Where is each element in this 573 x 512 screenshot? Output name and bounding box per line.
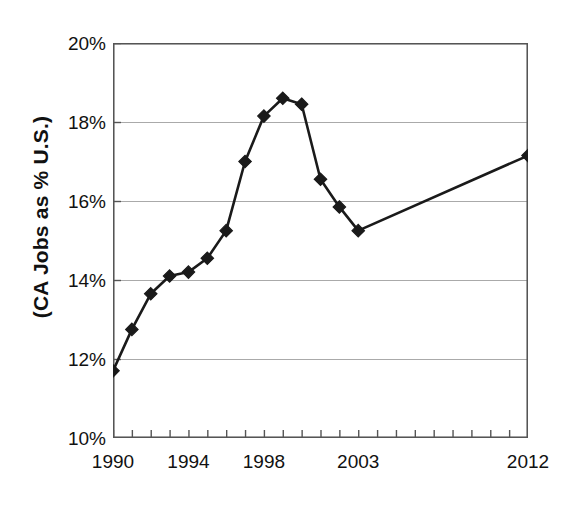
plot-area: [113, 43, 528, 438]
plot-frame: [114, 44, 528, 438]
data-point-marker: [522, 149, 528, 161]
y-axis-tick-label: 12%: [44, 350, 106, 369]
x-axis-tick-label: 2012: [507, 452, 549, 471]
y-axis-tick-label: 20%: [44, 34, 106, 53]
x-axis-tick-label: 1998: [243, 452, 285, 471]
data-point-marker: [295, 98, 307, 110]
data-point-marker: [126, 323, 138, 335]
y-axis-tick-label: 18%: [44, 113, 106, 132]
y-axis-tick-label: 10%: [44, 429, 106, 448]
x-axis-tick-label: 1994: [167, 452, 209, 471]
data-line-series-1: [113, 98, 528, 371]
x-axis-tick-label: 1990: [92, 452, 134, 471]
y-axis-tick-labels: 10%12%14%16%18%20%: [44, 0, 106, 512]
data-point-markers: [113, 92, 528, 377]
x-axis-tick-label: 2003: [337, 452, 379, 471]
data-point-marker: [239, 155, 251, 167]
x-axis-tick-labels: 19901994199820032012: [0, 452, 573, 482]
y-axis-tick-label: 14%: [44, 271, 106, 290]
gridlines: [113, 123, 528, 360]
chart-figure: (CA Jobs as % U.S.) 10%12%14%16%18%20% 1…: [0, 0, 573, 512]
y-axis-tick-label: 16%: [44, 192, 106, 211]
chart-plot-svg: [113, 43, 528, 438]
